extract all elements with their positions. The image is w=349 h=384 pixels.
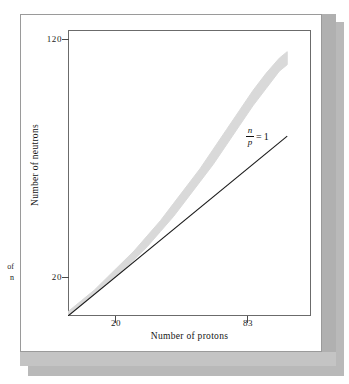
- y-tick-mark-20: [62, 277, 69, 278]
- np-ratio-annotation: n p = 1: [246, 126, 269, 147]
- y-tick-label-120: 120: [38, 34, 62, 44]
- np-ratio-line: [68, 136, 287, 316]
- np-fraction: n p: [246, 126, 254, 147]
- y-tick-mark-120: [62, 39, 69, 40]
- caption-fragment-line2: n: [0, 273, 14, 282]
- equals-sign: =: [256, 131, 262, 142]
- ratio-value: 1: [264, 131, 269, 142]
- figure-bevel-right: [322, 14, 336, 366]
- x-tick-label-83: 83: [236, 318, 260, 328]
- plot-canvas: [68, 30, 311, 316]
- x-tick-label-20: 20: [104, 318, 128, 328]
- np-denominator: p: [247, 138, 254, 147]
- y-tick-label-20: 20: [38, 272, 62, 282]
- y-axis-title: Number of neutrons: [30, 110, 40, 220]
- figure-stage: of n 120 20 20 83 Number of protons Numb…: [0, 0, 349, 384]
- np-numerator: n: [247, 126, 254, 135]
- stability-band: [68, 52, 287, 316]
- caption-fragment-line1: of: [0, 262, 14, 271]
- x-axis-title: Number of protons: [68, 331, 311, 341]
- figure-bevel-bottom: [20, 352, 336, 366]
